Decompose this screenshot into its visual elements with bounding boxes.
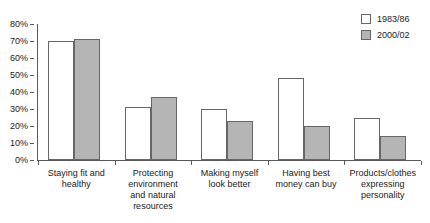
x-axis-category-label: Protectingenvironmentand naturalresource… [115,168,192,212]
legend: 1983/86 2000/02 [361,12,430,44]
legend-label-1983-86: 1983/86 [377,15,410,24]
x-axis-category-label: Making myselflook better [191,168,268,190]
y-axis-tick-mark [30,143,34,144]
x-axis-category-label-line: Staying fit and [38,168,115,179]
bar[interactable] [278,78,304,160]
bar[interactable] [380,136,406,160]
x-axis-tick-mark [344,161,345,165]
bar-group [38,24,115,160]
y-axis-tick-mark [30,109,34,110]
x-axis-category-label-line: healthy [38,179,115,190]
bar-group [115,24,192,160]
x-axis-category-label-line: and natural [115,190,192,201]
y-axis-tick-mark [30,58,34,59]
legend-item-1983-86[interactable]: 1983/86 [361,12,430,26]
y-axis-tick-label: 40% [10,88,28,97]
x-axis-category-label-line: Having best [268,168,345,179]
plot-area [38,24,421,160]
bar-group [191,24,268,160]
bar[interactable] [151,97,177,160]
x-axis-category-label-line: look better [191,179,268,190]
bar[interactable] [48,41,74,160]
x-axis-category-label-line: money can buy [268,179,345,190]
x-axis-category-label: Products/clothesexpressingpersonality [344,168,421,201]
x-axis-category-label-line: resources [115,201,192,212]
legend-swatch-icon-1983-86 [361,14,371,24]
y-axis-tick-mark [30,160,34,161]
y-axis-tick-label: 0% [15,156,28,165]
y-axis-tick-label: 70% [10,37,28,46]
x-axis-category-label: Staying fit andhealthy [38,168,115,190]
bar[interactable] [125,107,151,160]
x-axis-tick-mark [191,161,192,165]
y-axis-tick-mark [30,24,34,25]
y-axis-tick-label: 30% [10,105,28,114]
y-axis-tick-mark [30,75,34,76]
bar-group [344,24,421,160]
x-axis-tick-mark [268,161,269,165]
y-axis-tick-mark [30,41,34,42]
x-axis-tick-mark [421,161,422,165]
bar[interactable] [354,118,380,161]
y-axis-tick-label: 20% [10,122,28,131]
bar-chart: 80%70%60%50%40%30%20%10%0% Staying fit a… [0,0,430,223]
legend-label-2000-02: 2000/02 [377,31,410,40]
x-axis-category-label: Having bestmoney can buy [268,168,345,190]
x-axis-category-label-line: Making myself [191,168,268,179]
bar[interactable] [304,126,330,160]
y-axis-tick-label: 10% [10,139,28,148]
x-axis-category-labels: Staying fit andhealthyProtectingenvironm… [38,168,421,223]
x-axis-category-label-line: Protecting [115,168,192,179]
y-axis-tick-mark [30,126,34,127]
x-axis-category-label-line: personality [344,190,421,201]
x-axis-line [37,160,421,161]
y-axis-tick-label: 60% [10,54,28,63]
y-axis-tick-mark [30,92,34,93]
bar[interactable] [201,109,227,160]
bar-group [268,24,345,160]
x-axis-category-label-line: Products/clothes [344,168,421,179]
legend-swatch-icon-2000-02 [361,30,371,40]
x-axis-category-label-line: expressing [344,179,421,190]
y-axis-tick-label: 50% [10,71,28,80]
bar[interactable] [227,121,253,160]
y-axis: 80%70%60%50%40%30%20%10%0% [0,19,34,167]
y-axis-tick-label: 80% [10,20,28,29]
bar[interactable] [74,39,100,160]
x-axis-category-label-line: environment [115,179,192,190]
legend-item-2000-02[interactable]: 2000/02 [361,28,430,42]
x-axis-tick-mark [38,161,39,165]
x-axis-tick-mark [115,161,116,165]
